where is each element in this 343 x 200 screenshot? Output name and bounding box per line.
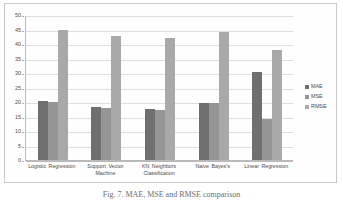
- x-axis-tick-label: Support Vector Machine: [79, 163, 133, 176]
- y-axis-tick-mark: [22, 31, 24, 32]
- x-axis-tick-labels: Logistic RegressionSupport Vector Machin…: [25, 163, 293, 185]
- plot-area: [25, 16, 293, 161]
- legend-swatch-icon: [305, 95, 309, 99]
- y-axis-tick-mark: [22, 132, 24, 133]
- y-axis-tick-label: 45: [15, 28, 21, 33]
- legend-swatch-icon: [305, 85, 309, 89]
- bar: [111, 36, 121, 160]
- bar-group: [240, 16, 294, 160]
- gridline: [26, 161, 293, 162]
- bar-group: [187, 16, 241, 160]
- y-axis-tick-label: 25: [15, 86, 21, 91]
- bar: [48, 102, 58, 160]
- y-axis-tick-mark: [22, 60, 24, 61]
- legend-label: MAE: [311, 84, 323, 89]
- legend-label: MSE: [311, 94, 323, 99]
- y-axis-tick-mark: [22, 147, 24, 148]
- bar: [38, 101, 48, 160]
- y-axis-tick-mark: [22, 103, 24, 104]
- x-axis-tick-label: Naive Bayes's: [186, 163, 240, 170]
- bar: [91, 107, 101, 160]
- figure-caption: Fig. 7. MAE, MSE and RMSE comparison: [0, 190, 343, 199]
- y-axis-tick-label: 15: [15, 115, 21, 120]
- y-axis-tick-mark: [22, 16, 24, 17]
- bar-group: [26, 16, 80, 160]
- legend-item[interactable]: MSE: [305, 94, 327, 99]
- y-axis-tick-label: 50: [15, 13, 21, 18]
- y-axis-tick-labels: 05101520253035404550: [5, 16, 24, 161]
- bars-layer: [26, 16, 293, 160]
- legend-item[interactable]: MAE: [305, 84, 327, 89]
- bar-group: [80, 16, 134, 160]
- bar: [262, 119, 272, 160]
- bar: [155, 110, 165, 160]
- x-axis-tick-label: KN Neighbors Classification: [132, 163, 186, 176]
- y-axis-tick-label: 30: [15, 71, 21, 76]
- x-axis-tick-label: Logistic Regression: [25, 163, 79, 170]
- bar: [272, 50, 282, 160]
- bar: [145, 109, 155, 160]
- bar: [58, 30, 68, 161]
- bar: [101, 108, 111, 160]
- bar: [209, 103, 219, 160]
- y-axis-tick-label: 35: [15, 57, 21, 62]
- y-axis-tick-mark: [22, 118, 24, 119]
- y-axis-tick-label: 0: [18, 158, 21, 163]
- y-axis-tick-label: 10: [15, 129, 21, 134]
- bar: [219, 32, 229, 160]
- legend-item[interactable]: RMSE: [305, 104, 327, 109]
- y-axis-tick-label: 40: [15, 42, 21, 47]
- y-axis-tick-label: 5: [18, 144, 21, 149]
- legend-label: RMSE: [311, 104, 327, 109]
- bar: [165, 38, 175, 160]
- legend-swatch-icon: [305, 105, 309, 109]
- y-axis-tick-label: 20: [15, 100, 21, 105]
- chart-legend: MAEMSERMSE: [305, 84, 327, 109]
- bar: [199, 103, 209, 160]
- bar: [252, 72, 262, 160]
- x-axis-tick-label: Linear Regression: [239, 163, 293, 170]
- bar-group: [133, 16, 187, 160]
- y-axis-tick-mark: [22, 45, 24, 46]
- figure-frame: 05101520253035404550 Logistic Regression…: [4, 3, 337, 183]
- y-axis-tick-mark: [22, 161, 24, 162]
- y-axis-tick-mark: [22, 74, 24, 75]
- y-axis-tick-mark: [22, 89, 24, 90]
